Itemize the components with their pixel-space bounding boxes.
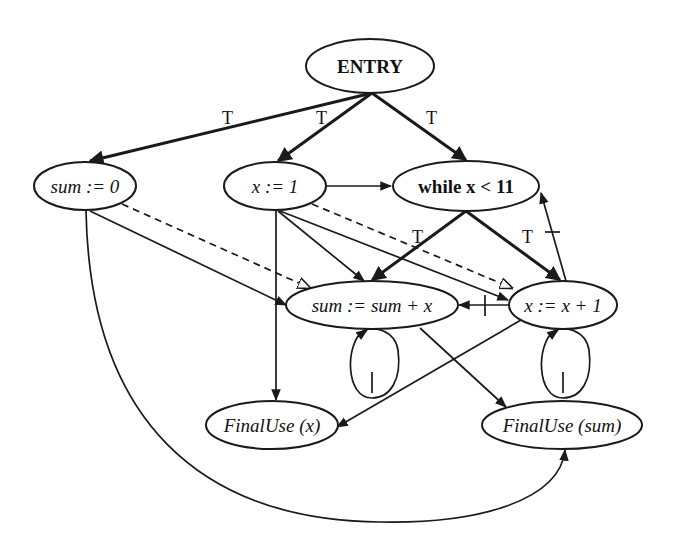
node-sum-update-label: sum := sum + x (312, 295, 433, 316)
node-x-update-label: x := x + 1 (523, 295, 601, 316)
node-final-sum: FinalUse (sum) (482, 401, 642, 449)
dependence-graph: T T T T T (0, 0, 676, 536)
edge-sum-init-def-order-sum-update (122, 204, 310, 288)
edge-while-to-x-update (466, 211, 560, 280)
edge-label-entry-sum-init: T (222, 108, 233, 128)
def-order-edges (122, 204, 512, 288)
edge-sum-init-to-sum-update (90, 211, 286, 305)
node-while: while x < 11 (393, 161, 539, 211)
edge-sum-init-to-final-sum (86, 211, 565, 522)
node-entry: ENTRY (306, 39, 434, 93)
edge-sum-update-self-loop (350, 329, 398, 398)
node-x-init: x := 1 (224, 162, 326, 210)
node-final-x: FinalUse (x) (206, 401, 338, 449)
node-final-x-label: FinalUse (x) (223, 415, 321, 437)
edge-x-update-self-loop (541, 329, 589, 398)
node-sum-update: sum := sum + x (286, 281, 458, 329)
node-sum-init: sum := 0 (34, 162, 136, 210)
node-x-init-label: x := 1 (251, 176, 299, 197)
edge-sum-update-to-final-sum (420, 328, 506, 407)
edge-x-init-def-order-x-update (312, 204, 512, 288)
node-while-label: while x < 11 (418, 176, 514, 197)
edge-label-while-x-update: T (522, 227, 533, 247)
flow-edges (86, 186, 590, 522)
edge-label-while-sum-update: T (412, 227, 423, 247)
edge-x-init-to-sum-update (278, 211, 364, 281)
edge-entry-to-while (372, 93, 466, 160)
node-entry-label: ENTRY (337, 56, 403, 77)
node-sum-init-label: sum := 0 (51, 176, 120, 197)
node-x-update: x := x + 1 (509, 281, 617, 329)
edge-label-entry-while: T (426, 108, 437, 128)
edge-label-entry-x-init: T (316, 108, 327, 128)
node-final-sum-label: FinalUse (sum) (502, 415, 622, 437)
